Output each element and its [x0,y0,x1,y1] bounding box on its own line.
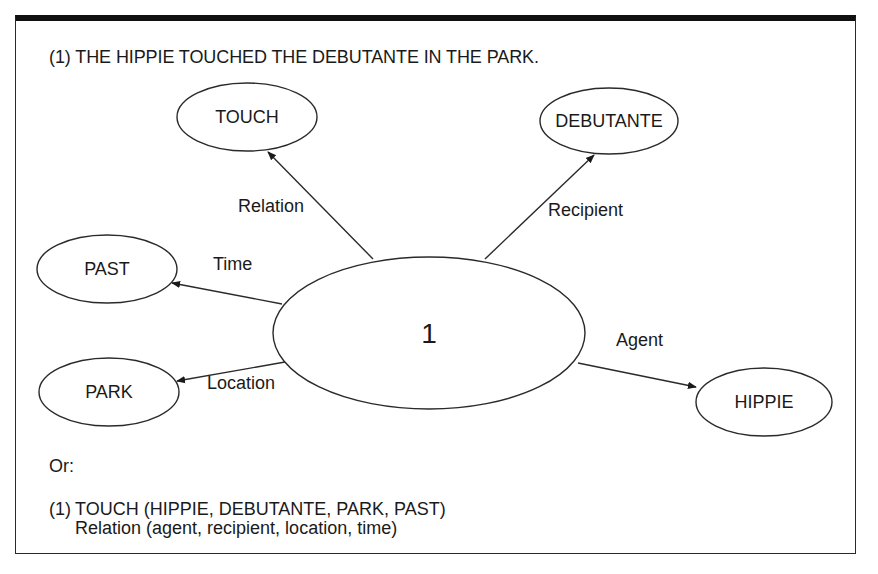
proposition-node-label: 1 [421,318,437,349]
proposition-formula: (1)TOUCH (HIPPIE, DEBUTANTE, PARK, PAST) [49,500,446,518]
edge-label-time: Time [213,254,252,274]
edge-label-location: Location [207,373,275,393]
alternative-intro: Or: [49,457,74,475]
proposition-text: TOUCH (HIPPIE, DEBUTANTE, PARK, PAST) [75,499,446,519]
proposition-number: (1) [49,500,75,518]
concept-node-hippie-label: HIPPIE [734,392,793,412]
propositional-network-diagram: RelationRecipientTimeLocationAgent1TOUCH… [0,0,878,574]
concept-node-park-label: PARK [85,382,133,402]
edge-arrow-agent [578,363,696,387]
edge-label-relation: Relation [238,196,304,216]
concept-node-touch-label: TOUCH [215,107,279,127]
proposition-roles: Relation (agent, recipient, location, ti… [75,519,397,537]
edge-arrow-time [172,283,282,304]
edge-label-agent: Agent [616,330,663,350]
concept-node-past-label: PAST [84,259,130,279]
concept-node-debutante-label: DEBUTANTE [555,111,663,131]
edge-label-recipient: Recipient [548,200,623,220]
